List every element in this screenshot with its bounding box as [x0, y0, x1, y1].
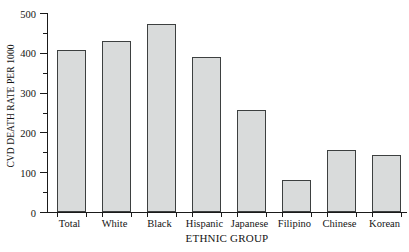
- x-axis-tick: [266, 212, 267, 217]
- y-axis-tick-label: 500: [20, 8, 36, 19]
- x-axis-tick: [102, 212, 103, 217]
- x-axis-tick-label: White: [92, 218, 137, 229]
- x-axis-tick-label: Total: [47, 218, 92, 229]
- y-axis-title-text: CVD DEATH RATE PER 1000: [6, 44, 16, 167]
- y-axis-major-tick: 300: [40, 93, 47, 94]
- x-axis-tick: [372, 212, 373, 217]
- x-axis-title: ETHNIC GROUP: [47, 232, 407, 244]
- x-axis-tick: [221, 212, 222, 217]
- x-axis-tick: [147, 212, 148, 217]
- y-axis-minor-tick: [43, 73, 47, 74]
- bar-filipino: [282, 180, 311, 212]
- y-axis-major-tick: 200: [40, 132, 47, 133]
- y-axis-major-tick: 100: [40, 172, 47, 173]
- x-axis-tick: [192, 212, 193, 217]
- y-axis-major-tick: 400: [40, 53, 47, 54]
- x-axis-tick: [282, 212, 283, 217]
- bar-hispanic: [192, 57, 221, 212]
- bar-korean: [372, 155, 401, 212]
- y-axis-tick-label: 400: [20, 48, 36, 59]
- x-axis-tick-label: Chinese: [317, 218, 362, 229]
- y-axis-minor-tick: [43, 33, 47, 34]
- y-axis-major-tick: 500: [40, 13, 47, 14]
- y-axis-tick-label: 0: [31, 207, 36, 218]
- x-axis-tick: [176, 212, 177, 217]
- x-axis-tick-label: Japanese: [227, 218, 272, 229]
- x-axis-tick-label: Filipino: [272, 218, 317, 229]
- x-axis-tick: [57, 212, 58, 217]
- x-axis-tick-label: Korean: [362, 218, 407, 229]
- y-axis-minor-tick: [43, 192, 47, 193]
- x-axis-tick-label: Black: [137, 218, 182, 229]
- bar-black: [147, 24, 176, 212]
- y-axis-tick-label: 300: [20, 88, 36, 99]
- y-axis-line: [47, 13, 48, 212]
- bar-japanese: [237, 110, 266, 212]
- x-axis-tick-label: Hispanic: [182, 218, 227, 229]
- plot-area: 0100200300400500 TotalWhiteBlackHispanic…: [47, 13, 407, 212]
- y-axis-minor-tick: [43, 113, 47, 114]
- bar-total: [57, 50, 86, 212]
- x-axis-tick: [356, 212, 357, 217]
- y-axis-minor-tick: [43, 152, 47, 153]
- cvd-death-rate-bar-chart: CVD DEATH RATE PER 1000 0100200300400500…: [0, 0, 409, 252]
- y-axis-major-tick: 0: [40, 212, 47, 213]
- x-axis-tick: [237, 212, 238, 217]
- x-axis-tick: [327, 212, 328, 217]
- bar-chinese: [327, 150, 356, 212]
- x-axis-tick: [401, 212, 402, 217]
- y-axis-title: CVD DEATH RATE PER 1000: [0, 0, 22, 212]
- x-axis-tick: [131, 212, 132, 217]
- bar-white: [102, 41, 131, 212]
- y-axis-tick-label: 200: [20, 127, 36, 138]
- x-axis-tick: [311, 212, 312, 217]
- x-axis-tick: [86, 212, 87, 217]
- y-axis-tick-label: 100: [20, 167, 36, 178]
- x-axis-line: [47, 212, 407, 213]
